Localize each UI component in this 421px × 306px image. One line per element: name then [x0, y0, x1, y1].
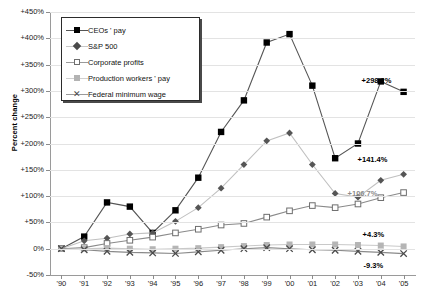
annotation-corporate-profits: +106.7%	[348, 189, 378, 198]
percent-change-line-chart: Percent change +450%+400%+350%+300%+250%…	[0, 0, 421, 306]
data-point-marker	[127, 237, 133, 243]
data-point-marker	[264, 39, 270, 45]
y-tick-label: 0%	[0, 244, 44, 253]
gridline	[50, 249, 415, 250]
data-point-marker	[310, 203, 316, 209]
annotation-federal-minimum-wage: -9.3%	[364, 261, 384, 270]
x-tick-label: '05	[391, 279, 417, 288]
gridline	[50, 12, 415, 13]
data-point-marker	[332, 241, 338, 247]
legend-key-sp500	[66, 40, 88, 52]
legend-item-corporate-profits[interactable]: Corporate profits	[62, 54, 199, 70]
y-tick-mark	[46, 170, 50, 171]
data-point-marker	[309, 241, 315, 247]
legend-item-ceos-pay[interactable]: CEOs ' pay	[62, 22, 199, 38]
data-point-marker	[195, 226, 201, 232]
y-tick-mark	[46, 12, 50, 13]
data-point-marker	[264, 214, 270, 220]
legend-key-federal-minimum-wage: ✕	[66, 88, 88, 100]
data-point-marker	[172, 218, 179, 225]
data-point-marker	[126, 231, 133, 238]
annotation-ceos-pay: +298.2%	[362, 76, 392, 85]
gridline	[50, 170, 415, 171]
data-point-marker	[355, 242, 361, 248]
legend-key-ceos-pay	[66, 24, 88, 36]
data-point-marker	[241, 97, 247, 103]
legend-label-corporate-profits: Corporate profits	[88, 58, 144, 67]
legend-key-production-workers-pay	[66, 72, 88, 84]
data-point-marker	[127, 203, 133, 209]
y-tick-mark	[46, 91, 50, 92]
y-tick-label: +200%	[0, 139, 44, 148]
legend-item-sp500[interactable]: S&P 500	[62, 38, 199, 54]
data-point-marker	[378, 243, 384, 249]
y-tick-label: +350%	[0, 60, 44, 69]
y-tick-label: +250%	[0, 112, 44, 121]
legend-label-federal-minimum-wage: Federal minimum wage	[88, 90, 166, 99]
y-tick-mark	[46, 222, 50, 223]
data-point-marker	[172, 207, 178, 213]
data-point-marker	[332, 205, 338, 211]
data-point-marker	[400, 171, 407, 178]
gridline	[50, 222, 415, 223]
series-line	[61, 193, 403, 249]
y-tick-label: +400%	[0, 33, 44, 42]
y-tick-label: +300%	[0, 86, 44, 95]
data-point-marker	[309, 82, 315, 88]
y-tick-label: +150%	[0, 165, 44, 174]
series-corporate-profits	[59, 190, 407, 252]
y-tick-mark	[46, 275, 50, 276]
data-point-marker	[218, 129, 224, 135]
y-tick-mark	[46, 117, 50, 118]
y-tick-label: +50%	[0, 217, 44, 226]
legend-label-production-workers-pay: Production workers ' pay	[88, 74, 170, 83]
data-point-marker	[286, 31, 292, 37]
y-tick-mark	[46, 65, 50, 66]
y-tick-label: -50%	[0, 270, 44, 279]
annotation-s-p-500: +141.4%	[358, 155, 388, 164]
gridline	[50, 144, 415, 145]
y-tick-label: +450%	[0, 7, 44, 16]
legend[interactable]: CEOs ' pay S&P 500 Corporate profits Pro…	[61, 17, 200, 101]
data-point-marker	[401, 190, 407, 196]
data-point-marker	[104, 199, 110, 205]
gridline	[50, 117, 415, 118]
data-point-marker	[150, 234, 156, 240]
y-tick-mark	[46, 144, 50, 145]
data-point-marker	[195, 174, 201, 180]
legend-label-sp500: S&P 500	[88, 42, 117, 51]
legend-key-corporate-profits	[66, 56, 88, 68]
legend-label-ceos-pay: CEOs ' pay	[88, 26, 126, 35]
y-tick-mark	[46, 196, 50, 197]
y-tick-mark	[46, 38, 50, 39]
annotation-production-workers-pay: +4.3%	[363, 230, 384, 239]
y-tick-label: +100%	[0, 191, 44, 200]
data-point-marker	[173, 230, 179, 236]
x-axis-line	[50, 275, 416, 276]
data-point-marker	[355, 201, 361, 207]
y-tick-mark	[46, 249, 50, 250]
legend-item-production-workers-pay[interactable]: Production workers ' pay	[62, 70, 199, 86]
legend-item-federal-minimum-wage[interactable]: ✕ Federal minimum wage	[62, 86, 199, 102]
data-point-marker	[332, 155, 338, 161]
data-point-marker	[287, 208, 293, 214]
